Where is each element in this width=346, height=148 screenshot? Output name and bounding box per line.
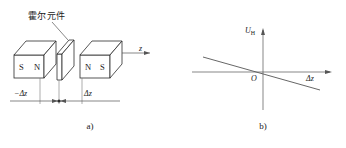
hall-plate-shape	[57, 40, 74, 80]
right-magnet-pole-n: N	[85, 62, 91, 72]
panel-a-hall-sensor-diagram: 霍尔元件 S N N S z −Δz Δz a)	[0, 0, 180, 148]
panel-b-caption: b)	[180, 121, 346, 131]
figure-root: 霍尔元件 S N N S z −Δz Δz a)	[0, 0, 346, 148]
dimension-label-delta-z: Δz	[84, 89, 92, 98]
dimension-label-negative-delta-z: −Δz	[14, 89, 27, 98]
left-magnet-pole-n: N	[34, 62, 40, 72]
panel-b-hall-voltage-chart: UH Δz O b)	[180, 0, 346, 148]
y-axis-label-main: U	[245, 26, 251, 35]
x-axis-label-delta-z: Δz	[306, 74, 314, 83]
origin-label: O	[251, 74, 257, 83]
y-axis	[261, 28, 265, 110]
left-magnet-shape	[14, 41, 56, 78]
y-axis-label-hall-voltage: UH	[245, 26, 255, 35]
callout-label-hall-element: 霍尔元件	[28, 9, 65, 22]
right-magnet-shape	[80, 41, 122, 78]
y-axis-label-subscript: H	[251, 30, 255, 36]
callout-leader-line	[52, 22, 68, 40]
dimension-extension-lines	[40, 78, 82, 104]
dimension-arrowheads	[52, 99, 66, 103]
hall-voltage-data-line	[203, 57, 320, 90]
panel-a-caption: a)	[0, 121, 180, 131]
z-axis-label: z	[139, 44, 142, 53]
right-magnet-pole-s: S	[100, 62, 105, 72]
z-axis-line	[122, 51, 150, 55]
left-magnet-pole-s: S	[19, 62, 24, 72]
